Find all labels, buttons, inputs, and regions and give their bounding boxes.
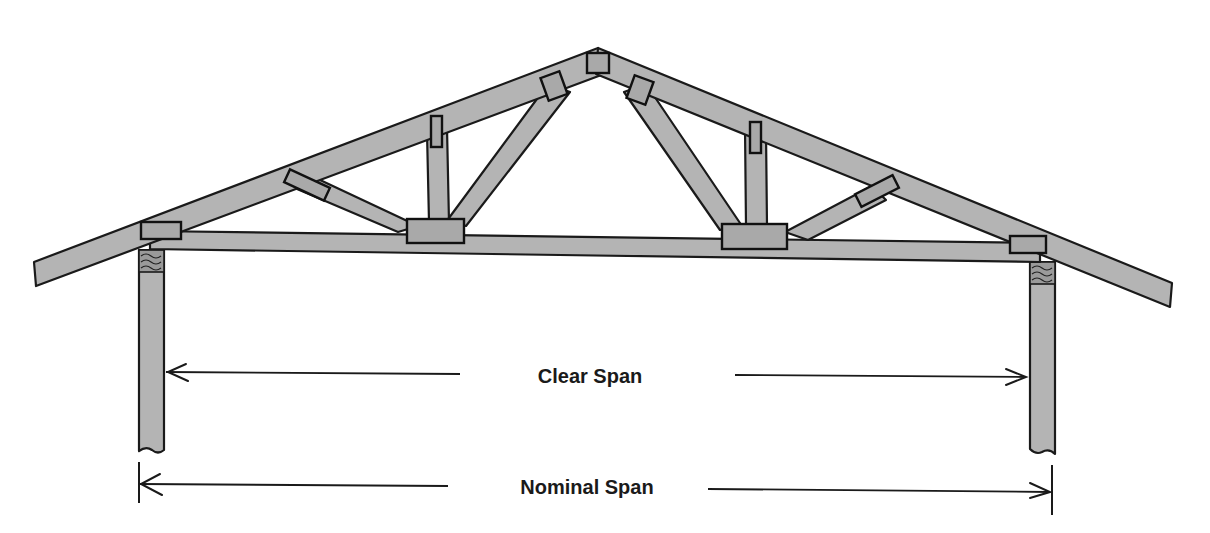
clear-span-label: Clear Span bbox=[538, 365, 642, 388]
right-wall-post bbox=[1030, 262, 1055, 454]
bottom-chord bbox=[150, 231, 1040, 262]
gusset-plate-apex bbox=[587, 53, 609, 73]
gusset-plate-left-vertical-top bbox=[431, 116, 442, 147]
gusset-plate-right-heel bbox=[1010, 236, 1046, 253]
gusset-plate-left-bottom bbox=[407, 219, 464, 243]
gusset-plate-right-vertical-top bbox=[750, 122, 761, 153]
gusset-plates bbox=[141, 53, 1046, 253]
left-wall-post bbox=[139, 250, 164, 453]
nominal-span-label: Nominal Span bbox=[520, 476, 653, 499]
gusset-plate-left-heel bbox=[141, 222, 181, 239]
gusset-plate-right-bottom bbox=[722, 224, 787, 249]
truss-diagram bbox=[0, 0, 1210, 533]
